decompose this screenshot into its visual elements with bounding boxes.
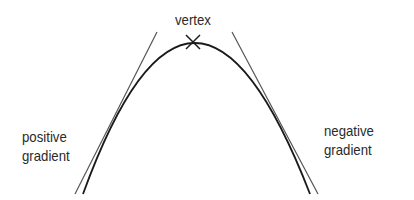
- positive-tangent-line: [75, 32, 157, 194]
- negative-label-line2: gradient: [324, 140, 374, 159]
- vertex-label: vertex: [175, 10, 211, 29]
- parabola-diagram: [0, 0, 414, 200]
- parabola-curve: [83, 43, 310, 194]
- negative-tangent-line: [232, 32, 318, 194]
- positive-label-line1: positive: [22, 127, 70, 146]
- vertex-cross-icon: [186, 35, 200, 49]
- positive-label-line2: gradient: [22, 146, 70, 165]
- negative-gradient-label: negative gradient: [324, 121, 374, 159]
- positive-gradient-label: positive gradient: [22, 127, 70, 165]
- negative-label-line1: negative: [324, 121, 374, 140]
